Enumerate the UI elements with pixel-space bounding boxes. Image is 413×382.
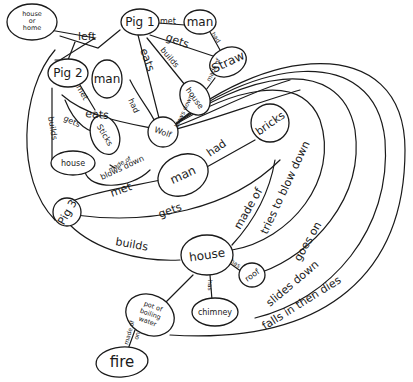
svg-text:man: man [94, 72, 121, 86]
concept-map-canvas: house or home Pig 1 man Straw house Pig … [0, 0, 413, 382]
node-roof: roof [239, 263, 265, 287]
edge-house-to-pot [163, 275, 193, 305]
label-wolf-eats-pig2: eats [85, 107, 110, 122]
node-man-mid: man [92, 60, 122, 98]
node-house-or-home: house or home [7, 4, 57, 40]
label-pig3-met: met [109, 180, 135, 200]
node-pig1: Pig 1 [121, 9, 159, 35]
label-goes-on: goes on [291, 219, 324, 263]
label-pig1-met: met [160, 17, 176, 26]
node-pig3: Pig 3 [53, 197, 81, 227]
label-has-chimney: has [207, 280, 214, 291]
svg-text:home: home [23, 24, 41, 32]
svg-text:Pig 2: Pig 2 [53, 66, 82, 80]
label-man-had-sticks: had [126, 97, 141, 114]
label-man-had-straw: had [210, 31, 222, 44]
svg-text:man: man [187, 15, 214, 29]
node-man-center: man [151, 146, 215, 204]
label-pig2-builds: builds [46, 116, 59, 141]
svg-text:house: house [61, 159, 85, 168]
label-tries-to-blow-down: tries to blow down [258, 139, 313, 236]
node-house-bottom: house [181, 235, 233, 275]
label-left: left [78, 30, 97, 43]
svg-text:fire: fire [110, 353, 135, 371]
label-has-roof: has [229, 257, 242, 269]
node-bricks: bricks [251, 104, 289, 142]
label-pig2-gets: gets [62, 114, 81, 129]
label-pig3-builds: builds [114, 235, 149, 254]
node-house-left: house [51, 151, 95, 175]
node-man-top: man [184, 10, 216, 34]
svg-text:Pig 1: Pig 1 [125, 15, 154, 29]
concept-map: house or home Pig 1 man Straw house Pig … [0, 0, 413, 382]
label-pig2-met: met [74, 84, 90, 102]
label-wolf-eats-pig1: eats [137, 47, 157, 74]
node-chimney: chimney [192, 298, 238, 326]
label-man-had-bricks: had [204, 137, 228, 160]
svg-text:chimney: chimney [198, 308, 232, 317]
label-pig3-gets: gets [157, 200, 184, 220]
node-fire: fire [95, 345, 149, 379]
